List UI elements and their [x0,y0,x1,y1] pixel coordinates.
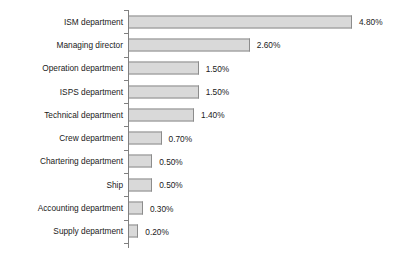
bar-group: 1.40% [129,108,225,121]
bar-row[interactable]: Supply department0.20% [0,220,402,243]
axis-tick [124,80,128,81]
bar-value-label: 0.20% [145,226,169,236]
axis-tick [124,57,128,58]
axis-tick [124,10,128,11]
bar[interactable] [129,132,162,145]
bar-group: 2.60% [129,38,280,51]
category-label: Supply department [53,226,123,236]
bar[interactable] [129,155,152,168]
category-label: Crew department [59,133,123,143]
axis-tick [124,103,128,104]
axis-tick [124,150,128,151]
bar-group: 1.50% [129,85,229,98]
bar-group: 0.70% [129,132,192,145]
category-label: Ship [106,180,123,190]
bar-row-list: ISM department4.80%Managing director2.60… [0,10,402,248]
category-label: Accounting department [38,203,123,213]
bar-row[interactable]: Managing director2.60% [0,33,402,56]
axis-tick [124,243,128,244]
bar-value-label: 0.50% [159,180,183,190]
bar-value-label: 1.50% [206,63,230,73]
bar-value-label: 1.50% [206,87,230,97]
bar[interactable] [129,225,138,238]
category-label: ISPS department [60,87,123,97]
bar[interactable] [129,62,199,75]
axis-tick [124,196,128,197]
category-label: Technical department [44,110,123,120]
category-label: ISM department [64,17,123,27]
bar-row[interactable]: Chartering department0.50% [0,150,402,173]
bar-group: 0.50% [129,155,183,168]
bar-row[interactable]: Operation department1.50% [0,57,402,80]
bar-row[interactable]: Ship0.50% [0,173,402,196]
bar[interactable] [129,108,194,121]
category-label: Managing director [57,40,123,50]
axis-end-segment [0,243,402,248]
bar[interactable] [129,15,352,28]
bar-group: 0.50% [129,178,183,191]
bar-row[interactable]: Technical department1.40% [0,103,402,126]
axis-tick [124,220,128,221]
bar-value-label: 4.80% [359,17,383,27]
bar-value-label: 2.60% [257,40,281,50]
bar-row[interactable]: Accounting department0.30% [0,196,402,219]
bar-chart: ISM department4.80%Managing director2.60… [0,0,402,273]
bar-value-label: 1.40% [201,110,225,120]
category-label: Operation department [42,63,123,73]
bar-group: 0.20% [129,225,169,238]
bar[interactable] [129,38,250,51]
bar-value-label: 0.50% [159,156,183,166]
bar-group: 0.30% [129,202,173,215]
bar[interactable] [129,85,199,98]
plot-area: ISM department4.80%Managing director2.60… [0,0,402,273]
bar-value-label: 0.30% [150,203,174,213]
category-label: Chartering department [40,156,123,166]
bar[interactable] [129,202,143,215]
axis-tick [124,33,128,34]
axis-tick [124,173,128,174]
bar-group: 4.80% [129,15,383,28]
bar-row[interactable]: Crew department0.70% [0,126,402,149]
bar-value-label: 0.70% [169,133,193,143]
bar-row[interactable]: ISM department4.80% [0,10,402,33]
axis-tick [124,126,128,127]
bar[interactable] [129,178,152,191]
bar-row[interactable]: ISPS department1.50% [0,80,402,103]
bar-group: 1.50% [129,62,229,75]
